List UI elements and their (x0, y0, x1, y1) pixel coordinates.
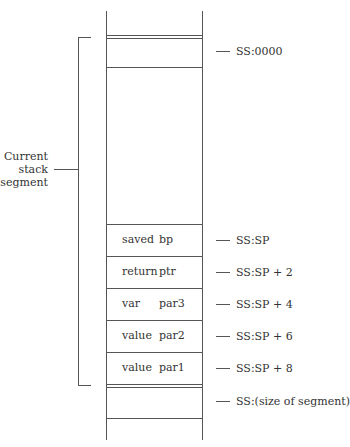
bracket-label-line2: stack (19, 163, 48, 176)
address-label: SS:SP + 2 (236, 266, 293, 279)
segment-bottom-line-2 (106, 387, 203, 388)
bracket-label-line3: segment (0, 176, 48, 189)
address-leader (216, 401, 230, 402)
row-line (106, 224, 203, 225)
cell-value: par1 (159, 361, 185, 374)
row-line (106, 320, 203, 321)
address-leader (216, 336, 230, 337)
address-label: SS:SP + 8 (236, 362, 293, 375)
column-left-edge (106, 11, 107, 440)
cell-value: par2 (159, 329, 185, 342)
address-leader (216, 51, 230, 52)
cell-label: return (122, 265, 158, 278)
cell-label: value (122, 329, 152, 342)
cell-value: bp (159, 233, 173, 246)
address-leader (216, 304, 230, 305)
address-label: SS:(size of segment) (236, 395, 350, 408)
address-leader (216, 240, 230, 241)
bracket-vertical (78, 37, 79, 386)
cell-label: saved (122, 233, 154, 246)
address-label: SS:0000 (236, 45, 283, 58)
segment-top-line-2 (106, 38, 203, 39)
address-leader (216, 368, 230, 369)
address-label: SS:SP (236, 234, 270, 247)
row-line (106, 418, 203, 419)
column-right-edge (202, 11, 203, 440)
row-line (106, 352, 203, 353)
address-label: SS:SP + 4 (236, 298, 293, 311)
row-line (106, 67, 203, 68)
bracket-bottom-tick (78, 385, 91, 386)
address-label: SS:SP + 6 (236, 330, 293, 343)
cell-value: par3 (159, 297, 185, 310)
cell-label: value (122, 361, 152, 374)
cell-value: ptr (159, 265, 176, 278)
bracket-pointer (54, 169, 78, 170)
row-line (106, 256, 203, 257)
row-line (106, 288, 203, 289)
bracket-label-line1: Current (4, 150, 48, 163)
bracket-top-tick (78, 37, 91, 38)
segment-bottom-line (106, 384, 203, 385)
cell-label: var (122, 297, 140, 310)
address-leader (216, 272, 230, 273)
segment-top-line (106, 35, 203, 36)
